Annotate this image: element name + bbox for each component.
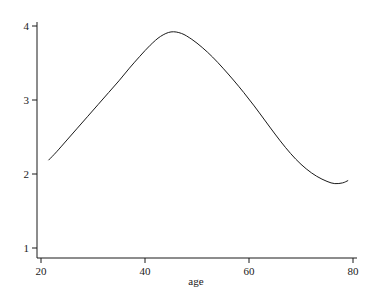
y-tick-label: 2 bbox=[24, 169, 30, 180]
data-line-series bbox=[49, 32, 348, 184]
x-tick-label: 80 bbox=[348, 266, 359, 277]
chart-canvas bbox=[0, 0, 374, 300]
x-tick-label: 20 bbox=[36, 266, 47, 277]
y-tick-label: 3 bbox=[24, 95, 30, 106]
line-chart: 1234 20406080 age bbox=[0, 0, 374, 300]
y-tick-label: 1 bbox=[24, 243, 30, 254]
x-tick-label: 60 bbox=[244, 266, 255, 277]
x-axis-title: age bbox=[188, 276, 203, 287]
y-tick-label: 4 bbox=[24, 21, 30, 32]
y-axis-ticks bbox=[32, 26, 37, 248]
x-axis-ticks bbox=[41, 258, 353, 263]
x-tick-label: 40 bbox=[140, 266, 151, 277]
